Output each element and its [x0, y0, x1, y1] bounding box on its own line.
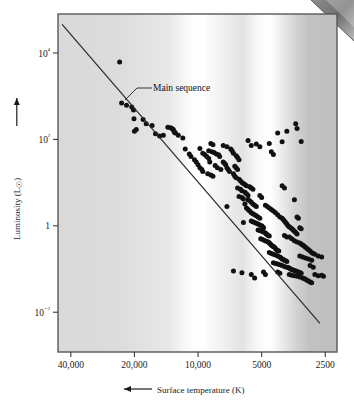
star-data-point: [242, 202, 247, 207]
star-data-point: [295, 126, 300, 131]
star-data-point: [241, 220, 246, 225]
x-axis-title: Surface temperature (K): [157, 385, 244, 395]
hr-diagram-figure: 40,00020,00010,00050002500 10⁴10²110⁻² M…: [0, 0, 354, 405]
star-data-point: [293, 121, 298, 126]
star-data-point: [200, 169, 205, 174]
star-data-point: [254, 204, 259, 209]
spectrum-background: [58, 14, 337, 352]
star-data-point: [237, 157, 242, 162]
star-data-point: [239, 270, 244, 275]
star-data-point: [161, 133, 166, 138]
star-data-point: [241, 196, 246, 201]
star-data-point: [257, 193, 262, 198]
star-data-point: [217, 154, 222, 159]
star-data-point: [319, 254, 324, 259]
star-data-point: [280, 139, 285, 144]
star-data-point: [124, 103, 129, 108]
y-axis-title: Luminosity (L☉): [12, 178, 24, 240]
star-data-point: [284, 129, 289, 134]
star-data-point: [197, 146, 202, 151]
star-data-point: [299, 139, 304, 144]
star-data-point: [131, 116, 136, 121]
star-data-point: [263, 272, 268, 277]
star-data-point: [235, 167, 240, 172]
star-data-point: [296, 216, 301, 221]
star-data-point: [276, 249, 281, 254]
star-data-point: [210, 174, 215, 179]
star-data-point: [295, 231, 300, 236]
star-data-point: [183, 147, 188, 152]
star-data-point: [210, 142, 215, 147]
star-data-point: [180, 135, 185, 140]
star-data-point: [246, 138, 251, 143]
star-data-point: [282, 186, 287, 191]
star-data-point: [117, 59, 122, 64]
star-data-point: [267, 141, 272, 146]
x-tick-label: 40,000: [58, 360, 84, 370]
x-tick-label: 10,000: [185, 360, 211, 370]
star-data-point: [249, 143, 254, 148]
star-data-point: [250, 187, 255, 192]
y-tick-label: 1: [45, 221, 50, 231]
star-data-point: [311, 265, 316, 270]
x-tick-label: 20,000: [121, 360, 147, 370]
star-data-point: [176, 133, 181, 138]
x-tick-label: 5000: [252, 360, 271, 370]
star-data-point: [284, 235, 289, 240]
x-tick-label: 2500: [316, 360, 335, 370]
star-data-point: [267, 234, 272, 239]
star-data-point: [269, 149, 274, 154]
star-data-point: [249, 272, 254, 277]
star-data-point: [284, 259, 289, 264]
main-sequence-label: Main sequence: [153, 83, 210, 93]
hr-diagram-svg: 40,00020,00010,00050002500 10⁴10²110⁻² M…: [0, 0, 354, 405]
star-data-point: [207, 160, 212, 165]
star-data-point: [254, 142, 259, 147]
star-data-point: [224, 204, 229, 209]
star-data-point: [218, 167, 223, 172]
star-data-point: [275, 131, 280, 136]
star-data-point: [292, 197, 297, 202]
star-data-point: [257, 216, 262, 221]
star-data-point: [231, 269, 236, 274]
star-data-point: [119, 100, 124, 105]
solar-symbol-icon: ☉: [15, 181, 24, 188]
star-data-point: [299, 226, 304, 231]
star-data-point: [132, 129, 137, 134]
star-data-point: [224, 144, 229, 149]
star-data-point: [309, 258, 314, 263]
star-data-point: [309, 280, 314, 285]
star-data-point: [321, 274, 326, 279]
